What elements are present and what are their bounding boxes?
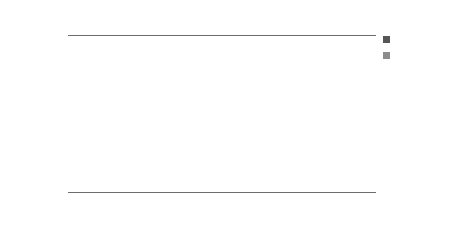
oil-reserves-bar-chart [0,0,466,235]
legend-swatch-icon [383,36,390,43]
bottom-axis-line [68,192,376,193]
plot-area [68,36,375,192]
legend [383,36,394,68]
legend-item-rp-ratio[interactable] [383,52,394,59]
legend-swatch-icon [383,52,390,59]
legend-item-proven-reserves[interactable] [383,36,394,43]
